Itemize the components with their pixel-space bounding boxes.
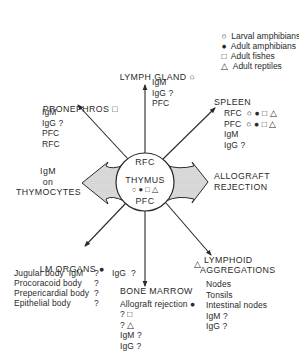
species-symbols: ○ ● □ △ [247,108,277,118]
bone-marrow-igg: IgG ? [112,268,136,279]
species-symbols: ○ ● □ △ [246,119,276,129]
thymus-title: THYMUS [123,175,167,186]
open-square-icon: □ [112,104,118,114]
lymphoid-items: Nodes Tonsils Intestinal nodes IgM ? IgG… [206,279,267,332]
thymocytes-label: IgM on THYMOCYTES [16,166,80,198]
legend-item-adult-reptiles: △ Adult reptiles [212,51,282,81]
arrow-spleen [163,108,215,159]
bone-marrow-title: BONE MARROW [120,286,193,297]
pronephros-items: IgM IgG ? PFC RFC [42,107,63,149]
lymphoid-title-2: AGGREGATIONS [200,265,276,276]
bone-marrow-items: ? □ ? △ IgM ? IgG ? [120,309,142,351]
thymus-rfc: RFC [131,157,159,168]
arrow-lymphoid [166,203,211,255]
allograft-label: ALLOGRAFT REJECTION [214,171,270,192]
thymus-species-symbols: ○ ● □ △ [125,185,165,196]
open-triangle-icon: △ [221,61,228,71]
filled-circle-icon: ● [190,299,195,309]
spleen-title: SPLEEN [214,97,251,108]
thymus-pfc: PFC [131,196,159,207]
spleen-items: RFC ○ ● □ △ PFC ○ ● □ △ IgM IgG ? [224,108,277,150]
lymph-gland-items: IgM IgG ? PFC [152,77,173,109]
bone-marrow-allograft: Allograft rejection ● [120,299,195,310]
arrow-lm-organs [85,203,126,246]
open-circle-icon: ○ [189,72,195,82]
filled-circle-icon: ● [99,264,105,274]
lymphoid-title: LYMPHOID [204,255,253,266]
